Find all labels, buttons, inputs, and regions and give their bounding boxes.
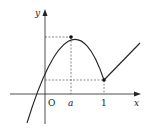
x-axis-arrow-icon	[134, 92, 141, 97]
dashed-guides	[45, 37, 104, 94]
y-axis-label: y	[34, 8, 41, 18]
corner-point	[102, 78, 106, 82]
tick-label-1: 1	[101, 98, 107, 108]
parabola-curve	[27, 39, 104, 123]
tick-label-a: a	[68, 98, 73, 108]
origin-label: O	[48, 98, 55, 108]
y-axis-arrow-icon	[43, 9, 48, 16]
linear-piece	[104, 43, 140, 80]
maximum-point	[69, 35, 73, 39]
axes	[10, 12, 138, 124]
function-graph: y x O a 1	[0, 0, 152, 133]
x-axis-label: x	[134, 98, 139, 108]
